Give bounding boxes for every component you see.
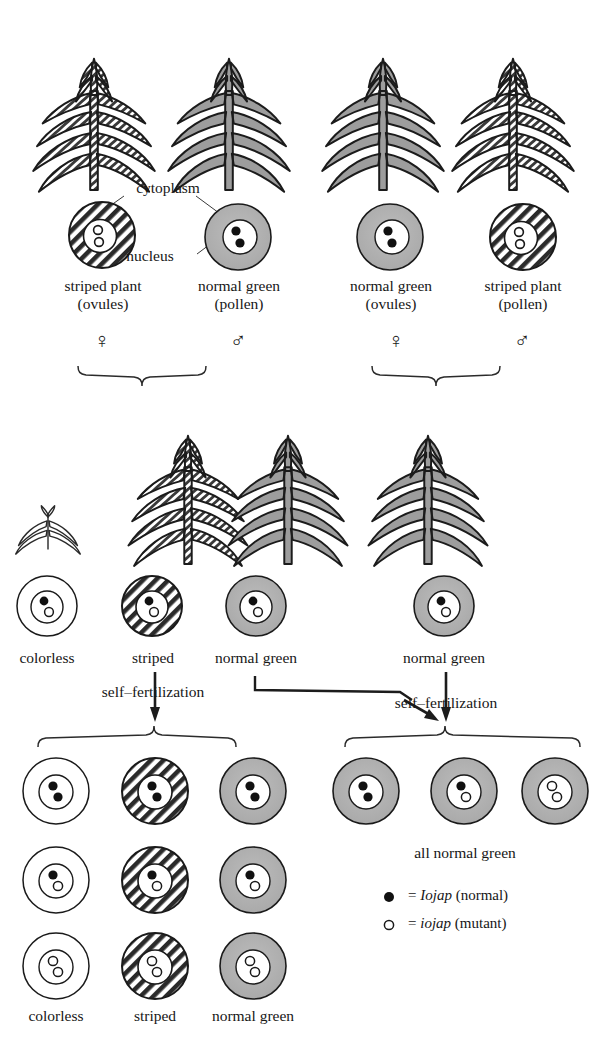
label-all-normal-green: all normal green xyxy=(370,845,560,862)
cell-f2-normal-green-r1 xyxy=(220,758,286,824)
label-f1-striped: striped xyxy=(105,650,201,667)
label-f2-column-colorless: colorless xyxy=(6,1008,106,1025)
cell-f2-right-3 xyxy=(522,758,588,824)
sex-symbol-male-left: ♂ xyxy=(208,330,268,352)
legend-equals-mutant: = xyxy=(408,915,416,931)
cell-parent-normal-green-pollen xyxy=(205,204,271,270)
legend-gene-normal: Iojap xyxy=(420,887,452,903)
label-parent-normal-green-ovules-line2: (ovules) xyxy=(320,296,462,313)
label-parent-normal-green-ovules-line1: normal green xyxy=(320,278,462,295)
cell-f2-striped-r2 xyxy=(122,847,188,913)
label-parent-normal-green-pollen-line1: normal green xyxy=(168,278,310,295)
legend-hollow-marker xyxy=(384,920,393,929)
cell-parent-normal-green-ovules xyxy=(357,204,423,270)
cell-f1-right-normal-green xyxy=(414,576,474,636)
label-self-fertilization-right: self–fertilization xyxy=(348,695,544,712)
sex-symbol-female-right: ♀ xyxy=(366,330,426,352)
cell-f2-striped-r3 xyxy=(122,933,188,999)
annotation-nucleus: nucleus xyxy=(105,248,195,265)
cell-f2-colorless-r2 xyxy=(23,847,89,913)
label-parent-normal-green-pollen-line2: (pollen) xyxy=(168,296,310,313)
label-parent-striped-pollen-line2: (pollen) xyxy=(452,296,590,313)
cell-f2-normal-green-r2 xyxy=(220,847,286,913)
legend-equals-normal: = xyxy=(408,887,416,903)
label-f2-column-normal-green: normal green xyxy=(189,1008,317,1025)
annotation-cytoplasm: cytoplasm xyxy=(108,180,228,197)
sex-symbol-male-right: ♂ xyxy=(492,330,552,352)
label-f1-colorless: colorless xyxy=(0,650,97,667)
cell-f2-right-1 xyxy=(333,758,399,824)
cell-f1-striped xyxy=(122,576,182,636)
legend-note-normal: (normal) xyxy=(456,887,508,903)
cell-f2-normal-green-r3 xyxy=(220,933,286,999)
cell-f1-colorless xyxy=(17,576,77,636)
label-f1-normal-green: normal green xyxy=(192,650,320,667)
cell-f2-striped-r1 xyxy=(122,758,188,824)
label-parent-striped-pollen-line1: striped plant xyxy=(452,278,590,295)
legend-row-normal: = Iojap (normal) xyxy=(408,887,508,904)
cell-f2-colorless-r1 xyxy=(23,758,89,824)
label-f1-right-normal-green: normal green xyxy=(380,650,508,667)
cell-f1-normal-green xyxy=(226,576,286,636)
legend-note-mutant: (mutant) xyxy=(455,915,507,931)
legend-filled-marker xyxy=(384,892,394,902)
legend-row-mutant: = iojap (mutant) xyxy=(408,915,506,932)
legend-gene-mutant: iojap xyxy=(420,915,451,931)
label-parent-striped-ovules-line2: (ovules) xyxy=(32,296,174,313)
cell-f2-colorless-r3 xyxy=(23,933,89,999)
label-parent-striped-ovules-line1: striped plant xyxy=(32,278,174,295)
sex-symbol-female-left: ♀ xyxy=(72,330,132,352)
cell-parent-striped-pollen xyxy=(490,204,556,270)
label-self-fertilization-left: self–fertilization xyxy=(58,684,248,701)
cell-f2-right-2 xyxy=(431,758,497,824)
